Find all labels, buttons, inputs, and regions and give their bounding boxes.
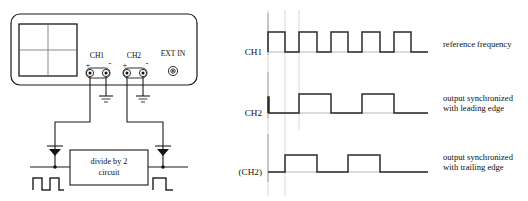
instrument-panel-group: CH1 + - CH2 + - EXT IN: [11, 14, 197, 85]
trace-label-ch1: CH1: [245, 47, 263, 57]
junction-right: [161, 165, 165, 169]
ch2-annotation-line1: output synchronized: [443, 93, 514, 103]
ch2-trailing-waveform: [268, 155, 428, 172]
ch1-jack-plus-pin: [89, 72, 92, 75]
connector-label-ext-in: EXT IN: [161, 49, 186, 58]
input-waveform-icon: [33, 178, 64, 190]
ch2-trailing-annotation-line1: output synchronized: [443, 152, 514, 162]
divide-by-2-label-line2: circuit: [99, 168, 121, 177]
ch1-annotation-line1: reference frequency: [443, 39, 512, 49]
ch2-annotation-line2: with leading edge: [443, 103, 504, 113]
figure-canvas: CH1 + - CH2 + - EXT IN: [0, 0, 528, 201]
ch2-waveform: [268, 94, 428, 113]
ch1-minus-sign: -: [109, 58, 112, 68]
connector-label-ch1: CH1: [90, 51, 105, 60]
connector-label-ch2: CH2: [127, 51, 142, 60]
ch1-waveform: [268, 32, 428, 52]
output-waveform-icon: [153, 178, 173, 190]
trace-label-ch2-trailing: (CH2): [239, 167, 262, 177]
ch2-trailing-annotation-line2: with trailing edge: [443, 162, 504, 172]
divide-by-2-group: divide by 2 circuit: [30, 133, 188, 190]
trace-label-ch2: CH2: [245, 108, 263, 118]
ch1-jack-minus-pin: [105, 72, 108, 75]
trace-group-ch2-trailing: (CH2) output synchronized with trailing …: [239, 134, 514, 182]
ground-symbol-ch2: [136, 96, 150, 102]
divide-by-2-label-line1: divide by 2: [91, 157, 128, 166]
ch2-minus-sign: -: [146, 58, 149, 68]
figure-root: CH1 + - CH2 + - EXT IN: [0, 0, 528, 201]
ch2-jack-minus-pin: [142, 72, 145, 75]
timing-diagram-group: CH1 reference frequency CH2 output synch…: [239, 10, 514, 196]
ext-in-bnc-pin: [172, 70, 174, 72]
ground-symbol-ch1: [99, 96, 113, 102]
ch2-jack-plus-pin: [126, 72, 129, 75]
junction-left: [53, 165, 57, 169]
